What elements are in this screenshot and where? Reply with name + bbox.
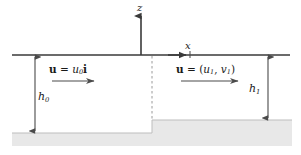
z-axis-label: z xyxy=(137,3,142,13)
velocity-left-value: u xyxy=(72,63,79,75)
velocity-label-left: u = u0i xyxy=(49,64,87,75)
h0-subscript: 0 xyxy=(45,96,49,104)
velocity-right-close-paren: ) xyxy=(231,63,235,75)
velocity-right-equals: = xyxy=(184,63,199,75)
velocity-label-right: u = (u1, v1) xyxy=(176,64,235,75)
depth-label-left: h0 xyxy=(38,91,49,102)
velocity-right-u-symbol: u xyxy=(203,63,210,75)
velocity-left-equals: = xyxy=(57,63,72,75)
depth-label-right: h1 xyxy=(249,83,260,94)
velocity-right-comma: , xyxy=(214,63,221,75)
velocity-right-bold-u: u xyxy=(176,63,184,75)
x-axis-label: x xyxy=(185,41,191,51)
diagram-canvas xyxy=(0,0,301,155)
velocity-left-bold-u: u xyxy=(49,63,57,75)
velocity-left-unit-vector: i xyxy=(83,63,87,75)
h1-subscript: 1 xyxy=(256,88,260,96)
fluid-step-diagram: z x u = u0i u = (u1, v1) h0 h1 xyxy=(0,0,301,155)
